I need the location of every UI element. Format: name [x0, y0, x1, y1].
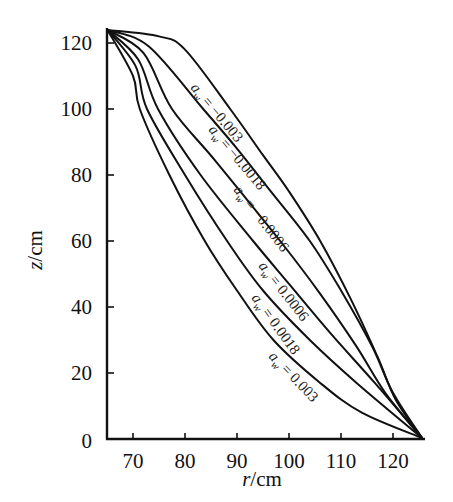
y-tick-label: 0 [82, 429, 93, 453]
x-tick-label: 110 [326, 449, 357, 473]
y-tick-label: 40 [71, 295, 92, 319]
y-tick-label: 20 [71, 361, 92, 385]
x-tick-label: 120 [377, 449, 409, 473]
y-tick-label: 120 [61, 31, 93, 55]
x-tick-label: 80 [175, 449, 196, 473]
y-tick-label: 60 [71, 229, 92, 253]
y-tick-label: 80 [71, 163, 92, 187]
y-axis-title: z/cm [23, 230, 47, 271]
chart: 708090100110120 020406080100120 aw= −0.0… [0, 0, 453, 502]
x-axis-title: r/cm [242, 467, 282, 491]
y-tick-label: 100 [61, 97, 93, 121]
x-tick-label: 70 [123, 449, 144, 473]
curve-label: aw= −0.0006 [228, 182, 292, 257]
